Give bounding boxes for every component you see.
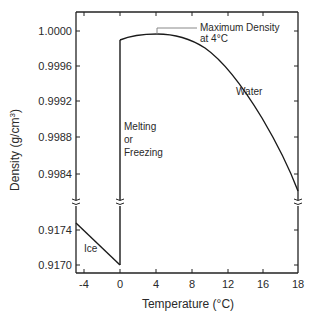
x-tick-label: 4: [153, 278, 159, 290]
y-tick-label: 0.9170: [38, 259, 72, 271]
y-tick-label: 0.9984: [38, 168, 72, 180]
water-line: [120, 34, 298, 191]
melting-label: Melting: [124, 121, 156, 132]
y-tick-labels: 1.0000 0.9996 0.9992 0.9988 0.9984 0.917…: [38, 25, 72, 271]
ice-label: Ice: [84, 243, 98, 254]
x-tick-labels: -4 0 4 8 12 16 18: [79, 278, 304, 290]
plot-frame: [76, 12, 298, 273]
y-axis-title: Density (g/cm3): [8, 109, 22, 191]
x-tick-label: 18: [292, 278, 304, 290]
x-tick-label: -4: [79, 278, 89, 290]
max-density-leader: [157, 28, 197, 34]
x-tick-label: 12: [222, 278, 234, 290]
y-tick-label: 0.9174: [38, 224, 72, 236]
y-tick-label: 1.0000: [38, 25, 72, 37]
x-tick-label: 0: [117, 278, 123, 290]
series-lines: [76, 34, 298, 265]
y-ticks: [76, 31, 298, 265]
water-label: Water: [236, 86, 263, 97]
x-axis-title: Temperature (°C): [142, 297, 234, 311]
density-chart: -4 0 4 8 12 16 18 1.0000 0.9996 0.9992 0…: [0, 0, 313, 319]
freezing-label: Freezing: [124, 147, 163, 158]
ice-line: [76, 223, 120, 265]
y-tick-label: 0.9996: [38, 60, 72, 72]
x-ticks: [84, 12, 263, 273]
max-density-label: Maximum Density: [200, 22, 279, 33]
axis-break-icon: [72, 199, 302, 205]
y-tick-label: 0.9992: [38, 95, 72, 107]
x-tick-label: 16: [257, 278, 269, 290]
max-density-label-2: at 4°C: [200, 33, 228, 44]
melting-or-label: or: [124, 134, 134, 145]
x-tick-label: 8: [189, 278, 195, 290]
y-tick-label: 0.9988: [38, 131, 72, 143]
